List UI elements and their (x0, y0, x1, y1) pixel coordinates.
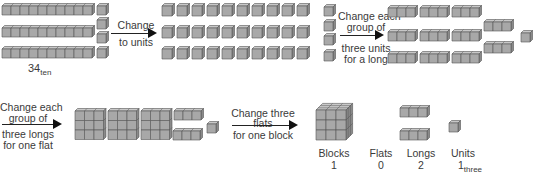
result-longs-name: Longs (400, 147, 442, 159)
result-flats: Flats 0 (366, 147, 396, 171)
result-units-name: Units (440, 147, 486, 159)
start-blocks-34-ten (0, 0, 110, 62)
result-flats-value: 0 (366, 159, 396, 171)
thirty-four-units (160, 0, 330, 70)
arrow-change-to-units (111, 33, 155, 34)
arrow-units-to-longs (340, 35, 382, 36)
arrow-label-step3-line4: for one flat (0, 139, 56, 151)
result-longs: Longs 2 (400, 147, 442, 171)
result-blocks-name: Blocks (314, 147, 354, 159)
arrow-flats-to-block (232, 125, 296, 126)
result-units: Units 1three (440, 147, 486, 176)
arrow-label-step4-line2: flats (230, 117, 296, 129)
arrow-label-change-to-units-line2: to units (114, 36, 158, 48)
arrow-longs-to-flats (2, 124, 60, 125)
result-longs-value: 2 (400, 159, 442, 171)
result-blocks: Blocks 1 (314, 147, 354, 171)
final-block-longs-unit (300, 100, 530, 150)
arrow-label-step4-line3: for one block (230, 129, 296, 141)
three-flats-two-longs-one-unit (72, 105, 222, 165)
result-flats-name: Flats (366, 147, 396, 159)
result-units-value: 1three (440, 159, 486, 176)
eleven-longs-one-unit (388, 0, 537, 70)
label-34-ten: 34ten (28, 62, 51, 79)
arrow-label-step2-line2: group of (338, 21, 394, 33)
arrow-label-step3-line2: group of (0, 112, 56, 124)
result-blocks-value: 1 (314, 159, 354, 171)
arrow-label-step2-line4: for a long (338, 53, 394, 65)
